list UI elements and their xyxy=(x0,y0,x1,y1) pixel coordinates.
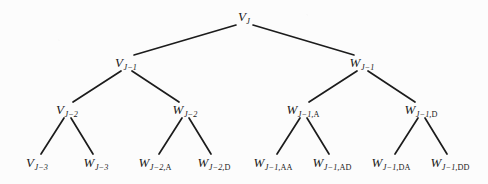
node-subscript-band: DA xyxy=(399,163,411,172)
node-subscript-index: J−1, xyxy=(324,163,340,172)
node-subscript-index: J−1, xyxy=(383,163,399,172)
tree-edge xyxy=(159,118,182,154)
tree-node-n12: WJ−1,AD xyxy=(312,154,351,172)
tree-node-n0: VJ xyxy=(238,8,250,26)
node-subscript: J−3 xyxy=(94,163,108,172)
node-subscript-band: AD xyxy=(340,163,352,172)
node-subscript: J−2 xyxy=(183,110,197,119)
tree-edge xyxy=(307,118,329,154)
tree-node-n13: WJ−1,DA xyxy=(371,154,410,172)
node-base-symbol: W xyxy=(430,155,441,170)
node-subscript: J−2,A xyxy=(149,163,171,172)
node-subscript: J−1,AD xyxy=(323,163,351,172)
node-base-symbol: W xyxy=(312,155,323,170)
tree-edge xyxy=(71,118,93,154)
node-base-symbol: W xyxy=(286,102,297,117)
node-subscript: J−1,DD xyxy=(441,163,469,172)
tree-node-n2: WJ−1 xyxy=(350,54,375,72)
node-base-symbol: V xyxy=(26,155,34,170)
node-subscript-index: J−2, xyxy=(150,163,166,172)
tree-edge xyxy=(425,118,447,154)
tree-node-n4: WJ−2 xyxy=(173,101,198,119)
tree-node-n5: WJ−1,A xyxy=(286,101,319,119)
node-subscript: J−1,DA xyxy=(382,163,410,172)
node-base-symbol: V xyxy=(56,102,64,117)
tree-edge xyxy=(309,71,357,102)
node-subscript-index: J−1, xyxy=(265,163,281,172)
node-subscript: J xyxy=(246,17,250,26)
tree-node-n6: WJ−1,D xyxy=(404,101,437,119)
tree-edge xyxy=(277,118,300,154)
wavelet-packet-tree-figure: VJVJ−1WJ−1VJ−2WJ−2WJ−1,AWJ−1,DVJ−3WJ−3WJ… xyxy=(0,0,488,184)
tree-edge xyxy=(73,71,121,102)
tree-edge xyxy=(368,71,415,102)
node-base-symbol: V xyxy=(115,55,123,70)
tree-node-n11: WJ−1,AA xyxy=(253,154,292,172)
node-base-symbol: W xyxy=(253,155,264,170)
node-subscript-index: J−1, xyxy=(298,110,314,119)
tree-node-n9: WJ−2,A xyxy=(138,154,171,172)
tree-node-n7: VJ−3 xyxy=(26,154,48,172)
tree-node-n10: WJ−2,D xyxy=(197,154,230,172)
tree-edge xyxy=(132,71,179,102)
node-subscript-band: D xyxy=(225,163,231,172)
tree-edge xyxy=(395,118,418,154)
tree-edges xyxy=(0,0,488,184)
node-base-symbol: W xyxy=(173,102,184,117)
node-subscript: J−1 xyxy=(360,63,374,72)
node-subscript-index: J−1 xyxy=(361,63,375,72)
node-base-symbol: W xyxy=(138,155,149,170)
tree-edge xyxy=(253,25,354,55)
node-base-symbol: V xyxy=(238,9,246,24)
tree-edge xyxy=(189,118,211,154)
node-base-symbol: W xyxy=(197,155,208,170)
node-subscript-index: J−3 xyxy=(34,163,48,172)
tree-node-n14: WJ−1,DD xyxy=(430,154,469,172)
node-subscript-index: J−2 xyxy=(184,110,198,119)
node-subscript-index: J−2, xyxy=(209,163,225,172)
node-subscript: J−2 xyxy=(64,110,78,119)
node-subscript-band: DD xyxy=(458,163,470,172)
node-subscript: J−1 xyxy=(123,63,137,72)
node-subscript: J−2,D xyxy=(208,163,230,172)
tree-edge xyxy=(41,118,64,154)
tree-node-n8: WJ−3 xyxy=(84,154,109,172)
node-subscript: J−1,AA xyxy=(264,163,292,172)
node-subscript: J−1,A xyxy=(297,110,319,119)
tree-node-n3: VJ−2 xyxy=(56,101,78,119)
node-subscript-band: D xyxy=(432,110,438,119)
node-subscript: J−1,D xyxy=(415,110,437,119)
node-base-symbol: W xyxy=(84,155,95,170)
node-subscript-index: J−1 xyxy=(123,63,137,72)
node-base-symbol: W xyxy=(404,102,415,117)
node-subscript-index: J−2 xyxy=(64,110,78,119)
node-base-symbol: W xyxy=(350,55,361,70)
node-subscript-band: AA xyxy=(281,163,293,172)
node-subscript: J−3 xyxy=(34,163,48,172)
node-base-symbol: W xyxy=(371,155,382,170)
node-subscript-band: A xyxy=(166,163,172,172)
tree-edge xyxy=(134,25,236,55)
tree-node-n1: VJ−1 xyxy=(115,54,137,72)
node-subscript-band: A xyxy=(314,110,320,119)
node-subscript-index: J−1, xyxy=(442,163,458,172)
node-subscript-index: J−1, xyxy=(416,110,432,119)
node-subscript-index: J xyxy=(246,17,250,26)
node-subscript-index: J−3 xyxy=(95,163,109,172)
